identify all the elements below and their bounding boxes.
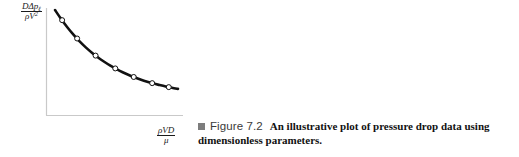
data-point-marker bbox=[93, 53, 98, 58]
data-point-marker bbox=[131, 74, 136, 79]
figure-caption: Figure 7.2An illustrative plot of pressu… bbox=[198, 119, 514, 147]
data-point-marker bbox=[150, 81, 155, 86]
data-point-marker bbox=[113, 66, 118, 71]
x-axis-label: ρVD μ bbox=[157, 126, 175, 146]
data-curve bbox=[55, 10, 178, 89]
data-point-marker bbox=[166, 85, 171, 90]
y-axis-label-denominator: ρV2 bbox=[21, 12, 42, 21]
figure-page: DΔpℓ ρV2 ρVD μ Figure 7.2An illustrative… bbox=[0, 0, 519, 157]
x-axis-label-denominator: μ bbox=[157, 136, 175, 145]
data-point-marker bbox=[75, 36, 80, 41]
filled-square-icon bbox=[198, 123, 205, 130]
figure-number-label: Figure 7.2 bbox=[210, 120, 263, 132]
y-axis-label: DΔpℓ ρV2 bbox=[21, 2, 42, 22]
data-point-marker bbox=[60, 18, 65, 23]
plot-area: DΔpℓ ρV2 ρVD μ bbox=[0, 0, 200, 125]
data-point-markers bbox=[60, 18, 172, 90]
